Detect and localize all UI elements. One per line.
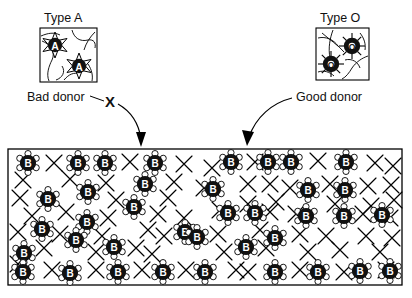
diagram-graphics: A A O O (0, 0, 412, 298)
svg-text:B: B (141, 179, 148, 190)
bad-donor-label: Bad donor (27, 91, 85, 104)
svg-text:B: B (342, 157, 349, 168)
svg-text:B: B (130, 202, 137, 213)
bad-donor-leader (90, 96, 104, 101)
svg-text:B: B (356, 266, 363, 277)
svg-text:B: B (114, 267, 121, 278)
type-o-title: Type O (320, 12, 360, 25)
svg-text:B: B (193, 232, 200, 243)
type-a-box-border (40, 28, 97, 82)
svg-text:B: B (83, 217, 90, 228)
type-o-cell-letter: O (349, 42, 356, 52)
svg-text:B: B (271, 233, 278, 244)
svg-text:B: B (264, 157, 271, 168)
svg-text:B: B (66, 268, 73, 279)
svg-text:B: B (72, 235, 79, 246)
svg-text:B: B (302, 211, 309, 222)
svg-text:B: B (304, 185, 311, 196)
svg-text:B: B (341, 185, 348, 196)
good-donor-arrow (242, 98, 292, 146)
svg-text:B: B (378, 210, 385, 221)
svg-text:B: B (201, 267, 208, 278)
svg-text:B: B (74, 158, 81, 169)
svg-text:B: B (38, 224, 45, 235)
reject-x-mark: X (105, 94, 115, 109)
svg-text:B: B (101, 158, 108, 169)
type-a-box: A A (40, 28, 97, 82)
good-donor-label: Good donor (296, 91, 362, 104)
svg-text:B: B (227, 157, 234, 168)
type-a-cell-letter: A (51, 40, 59, 52)
svg-text:B: B (242, 242, 249, 253)
svg-text:B: B (151, 158, 158, 169)
svg-text:B: B (287, 157, 294, 168)
type-a-title: Type A (44, 12, 82, 25)
type-o-box: O O (316, 28, 369, 80)
type-a-cell-letter: A (75, 61, 83, 73)
recipient-blood-field: B B B B B B B B B B B B B B B B B B B B (8, 149, 402, 286)
svg-text:B: B (224, 208, 231, 219)
bad-donor-arrow (118, 104, 146, 147)
type-o-box-border (316, 28, 369, 80)
svg-text:B: B (209, 184, 216, 195)
svg-text:B: B (44, 194, 51, 205)
svg-text:B: B (386, 266, 393, 277)
svg-text:B: B (84, 187, 91, 198)
svg-text:B: B (24, 158, 31, 169)
svg-text:B: B (340, 211, 347, 222)
type-o-cell-letter: O (328, 60, 335, 70)
svg-text:B: B (110, 242, 117, 253)
svg-text:B: B (251, 208, 258, 219)
svg-text:B: B (20, 248, 27, 259)
svg-text:B: B (314, 267, 321, 278)
svg-text:B: B (19, 267, 26, 278)
svg-text:B: B (159, 267, 166, 278)
figure-canvas: A A O O (0, 0, 412, 298)
svg-text:B: B (271, 267, 278, 278)
